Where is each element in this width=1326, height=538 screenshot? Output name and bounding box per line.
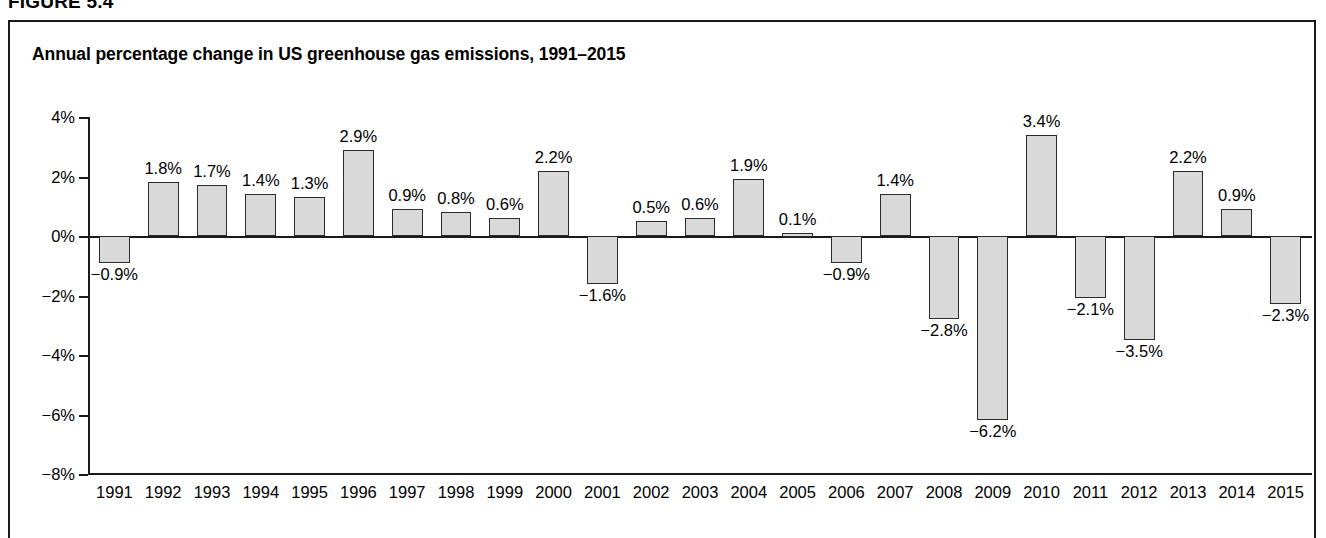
bar-value-label: 1.4% — [242, 171, 280, 190]
bar-value-label: 0.9% — [1218, 186, 1256, 205]
bar-group[interactable]: 2.2%2000 — [529, 117, 578, 474]
bar-group[interactable]: −6.2%2009 — [968, 117, 1017, 474]
bar[interactable] — [148, 182, 179, 236]
bar-value-label: 0.6% — [486, 195, 524, 214]
bar-group[interactable]: 0.5%2002 — [627, 117, 676, 474]
bar-value-label: 0.8% — [437, 189, 475, 208]
bar[interactable] — [392, 209, 423, 236]
y-tick-mark — [79, 177, 88, 179]
bar-group[interactable]: 0.9%1997 — [383, 117, 432, 474]
bar-group[interactable]: −0.9%2006 — [822, 117, 871, 474]
bar-group[interactable]: 1.7%1993 — [188, 117, 237, 474]
bar-group[interactable]: −2.3%2015 — [1261, 117, 1310, 474]
bar-group[interactable]: 1.3%1995 — [285, 117, 334, 474]
bar[interactable] — [929, 236, 960, 319]
bar[interactable] — [977, 236, 1008, 420]
bar-group[interactable]: 1.4%2007 — [871, 117, 920, 474]
bar-group[interactable]: 2.2%2013 — [1164, 117, 1213, 474]
bar[interactable] — [245, 194, 276, 236]
bar-value-label: −2.8% — [920, 321, 967, 340]
bar-group[interactable]: 0.1%2005 — [773, 117, 822, 474]
bar[interactable] — [733, 179, 764, 236]
bar[interactable] — [1026, 135, 1057, 236]
x-tick-label: 2015 — [1267, 483, 1304, 502]
x-tick-label: 2004 — [730, 483, 767, 502]
bar-group[interactable]: 0.9%2014 — [1212, 117, 1261, 474]
bar-group[interactable]: −1.6%2001 — [578, 117, 627, 474]
bar-value-label: 0.6% — [681, 195, 719, 214]
x-tick-label: 2011 — [1073, 483, 1108, 502]
bar-group[interactable]: 0.8%1998 — [432, 117, 481, 474]
x-tick-label: 1997 — [389, 483, 426, 502]
x-tick-label: 2000 — [535, 483, 572, 502]
x-tick-label: 1996 — [340, 483, 377, 502]
x-tick-label: 2013 — [1170, 483, 1207, 502]
bar-group[interactable]: 1.4%1994 — [236, 117, 285, 474]
y-tick-label: −6% — [42, 405, 75, 424]
bar-value-label: 0.9% — [388, 186, 426, 205]
bar[interactable] — [782, 233, 813, 237]
plot-area: −0.9%19911.8%19921.7%19931.4%19941.3%199… — [88, 117, 1310, 474]
x-tick-label: 1992 — [145, 483, 182, 502]
x-tick-label: 1995 — [291, 483, 328, 502]
bar[interactable] — [1173, 171, 1204, 236]
y-tick-label: 2% — [51, 167, 75, 186]
x-tick-label: 1993 — [194, 483, 231, 502]
bar[interactable] — [489, 218, 520, 236]
bar-value-label: 0.5% — [632, 198, 670, 217]
bar-value-label: 2.2% — [535, 148, 573, 167]
bar-group[interactable]: 1.9%2004 — [724, 117, 773, 474]
bar[interactable] — [294, 197, 325, 236]
x-tick-label: 2001 — [584, 483, 621, 502]
bar[interactable] — [1124, 236, 1155, 340]
bar[interactable] — [636, 221, 667, 236]
bar[interactable] — [587, 236, 618, 284]
bar[interactable] — [685, 218, 716, 236]
bar-group[interactable]: −3.5%2012 — [1115, 117, 1164, 474]
bar-group[interactable]: 1.8%1992 — [139, 117, 188, 474]
bar-value-label: −6.2% — [969, 422, 1016, 441]
bar-group[interactable]: 0.6%1999 — [480, 117, 529, 474]
bar-group[interactable]: 0.6%2003 — [676, 117, 725, 474]
figure-container: FIGURE 5.4 Annual percentage change in U… — [0, 0, 1326, 538]
bar-value-label: 1.8% — [144, 159, 182, 178]
y-tick-label: −2% — [42, 286, 75, 305]
bar-group[interactable]: −2.1%2011 — [1066, 117, 1115, 474]
bar[interactable] — [1270, 236, 1301, 304]
y-tick-mark — [79, 355, 88, 357]
x-tick-label: 2003 — [682, 483, 719, 502]
x-tick-label: 2002 — [633, 483, 670, 502]
x-tick-label: 2006 — [828, 483, 865, 502]
x-tick-label: 2008 — [926, 483, 963, 502]
y-tick-mark — [79, 296, 88, 298]
x-tick-label: 2009 — [974, 483, 1011, 502]
bar-group[interactable]: −2.8%2008 — [920, 117, 969, 474]
bar[interactable] — [99, 236, 130, 263]
x-tick-label: 1994 — [242, 483, 279, 502]
bar-series: −0.9%19911.8%19921.7%19931.4%19941.3%199… — [90, 117, 1310, 474]
y-tick-label: 4% — [51, 108, 75, 127]
bar-group[interactable]: 3.4%2010 — [1017, 117, 1066, 474]
bar-value-label: −3.5% — [1116, 342, 1163, 361]
bar[interactable] — [1075, 236, 1106, 298]
bar[interactable] — [441, 212, 472, 236]
x-tick-label: 1991 — [96, 483, 133, 502]
x-tick-label: 1998 — [438, 483, 475, 502]
bar-value-label: 1.9% — [730, 156, 768, 175]
bar[interactable] — [343, 150, 374, 236]
x-tick-label: 2005 — [779, 483, 816, 502]
bar-value-label: −1.6% — [579, 286, 626, 305]
figure-number-label: FIGURE 5.4 — [8, 0, 113, 13]
bar-group[interactable]: −0.9%1991 — [90, 117, 139, 474]
bar-group[interactable]: 2.9%1996 — [334, 117, 383, 474]
chart-title: Annual percentage change in US greenhous… — [32, 44, 626, 65]
bar[interactable] — [831, 236, 862, 263]
bar-value-label: 1.4% — [876, 171, 914, 190]
bar-value-label: −0.9% — [91, 265, 138, 284]
bar[interactable] — [880, 194, 911, 236]
bar[interactable] — [1221, 209, 1252, 236]
bar[interactable] — [197, 185, 228, 236]
y-tick-label: 0% — [51, 227, 75, 246]
y-tick-mark — [79, 415, 88, 417]
bar[interactable] — [538, 171, 569, 236]
